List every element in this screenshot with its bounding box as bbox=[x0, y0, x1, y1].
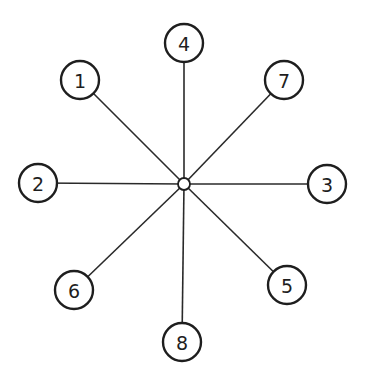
node-label: 1 bbox=[74, 70, 86, 92]
node-6: 6 bbox=[55, 271, 93, 309]
edge-hub-7 bbox=[184, 80, 284, 184]
node-label: 7 bbox=[278, 70, 290, 92]
edge-hub-5 bbox=[184, 184, 287, 285]
node-3: 3 bbox=[308, 165, 346, 203]
node-2: 2 bbox=[19, 164, 57, 202]
edge-hub-6 bbox=[74, 184, 184, 290]
star-diagram: 12345678 bbox=[0, 0, 366, 378]
node-label: 6 bbox=[68, 280, 80, 302]
node-label: 3 bbox=[321, 174, 333, 196]
edge-hub-8 bbox=[182, 184, 184, 342]
node-5: 5 bbox=[268, 266, 306, 304]
edge-hub-2 bbox=[38, 183, 184, 184]
node-4: 4 bbox=[165, 24, 203, 62]
node-8: 8 bbox=[163, 323, 201, 361]
node-label: 8 bbox=[176, 332, 188, 354]
node-1: 1 bbox=[61, 61, 99, 99]
node-7: 7 bbox=[265, 61, 303, 99]
node-label: 2 bbox=[32, 173, 44, 195]
edge-hub-1 bbox=[80, 80, 184, 184]
node-label: 5 bbox=[281, 275, 293, 297]
node-label: 4 bbox=[178, 33, 190, 55]
hub-node bbox=[178, 178, 190, 190]
